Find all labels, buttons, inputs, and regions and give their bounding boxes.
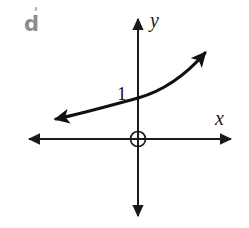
x-axis-label: x [215, 108, 224, 128]
part-label: d [24, 14, 39, 35]
exponential-graph-figure: d y x 1 [0, 0, 249, 228]
y-axis-label: y [150, 10, 159, 30]
exponential-curve [56, 53, 205, 119]
y-intercept-label: 1 [117, 84, 127, 103]
